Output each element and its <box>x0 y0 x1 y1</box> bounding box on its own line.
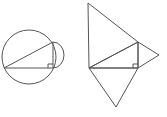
right-triangle <box>4 42 53 68</box>
right-figure <box>88 3 159 107</box>
large-circle <box>2 30 56 84</box>
left-figure <box>2 30 64 84</box>
hypotenuse-triangle <box>88 3 138 68</box>
geometry-diagram <box>0 0 167 117</box>
leg-triangle <box>138 42 159 68</box>
right-angle-marker <box>48 64 53 68</box>
base-triangle <box>89 68 138 107</box>
right-angle-marker <box>133 64 138 68</box>
